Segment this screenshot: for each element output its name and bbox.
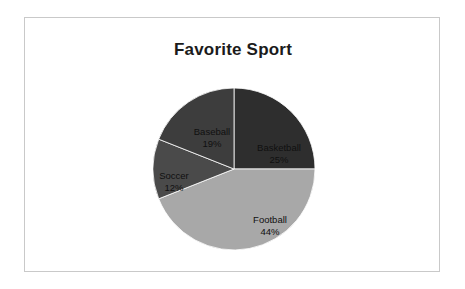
chart-canvas: Favorite Sport Baseball 19% Basketball 2… — [0, 0, 465, 289]
pie-label-football-value: 44% — [231, 226, 309, 238]
pie-label-basketball-name: Basketball — [237, 142, 321, 154]
pie-label-football-name: Football — [231, 214, 309, 226]
chart-title: Favorite Sport — [25, 40, 441, 60]
pie-label-soccer: Soccer 12% — [143, 170, 205, 194]
pie-label-basketball-value: 25% — [237, 154, 321, 166]
pie-label-soccer-value: 12% — [143, 182, 205, 194]
pie-label-soccer-name: Soccer — [143, 170, 205, 182]
pie-label-basketball: Basketball 25% — [237, 142, 321, 166]
pie-label-baseball-name: Baseball — [175, 126, 249, 138]
pie-label-football: Football 44% — [231, 214, 309, 238]
chart-frame: Favorite Sport Baseball 19% Basketball 2… — [24, 17, 440, 272]
